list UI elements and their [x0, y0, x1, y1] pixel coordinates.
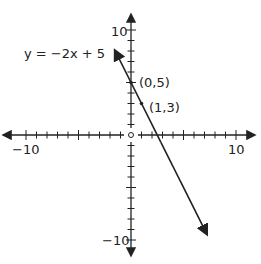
y-max-label: 10: [111, 24, 128, 39]
point-label-1-3: (1,3): [149, 100, 180, 115]
origin-marker: [129, 133, 134, 138]
equation-label: y = −2x + 5: [24, 46, 105, 61]
y-min-label: −10: [102, 233, 129, 248]
graph-line-start-arrow: [115, 51, 161, 142]
graph-line: [161, 142, 207, 233]
point-0-5: [129, 81, 133, 85]
x-max-label: 10: [228, 142, 245, 157]
point-1-3: [140, 102, 144, 106]
coordinate-plane: y = −2x + 5 (0,5) (1,3) −10 10 10 −10: [0, 0, 261, 264]
point-label-0-5: (0,5): [139, 75, 170, 90]
x-min-label: −10: [12, 142, 39, 157]
